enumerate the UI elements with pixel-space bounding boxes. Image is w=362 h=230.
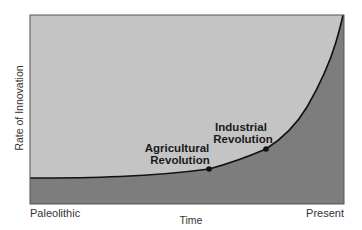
y-axis-label: Rate of Innovation [13, 65, 25, 150]
industrial-label-line1: Industrial [215, 121, 267, 133]
x-axis-label: Time [180, 214, 203, 226]
agricultural-revolution-point [206, 166, 212, 172]
agricultural-label-line1: Agricultural [145, 142, 210, 154]
x-tick-present: Present [306, 207, 344, 219]
industrial-revolution-point [263, 146, 269, 152]
innovation-chart: Agricultural Revolution Industrial Revol… [0, 0, 362, 230]
industrial-label-line2: Revolution [213, 133, 272, 145]
agricultural-label-line2: Revolution [150, 154, 209, 166]
x-tick-paleolithic: Paleolithic [30, 207, 81, 219]
